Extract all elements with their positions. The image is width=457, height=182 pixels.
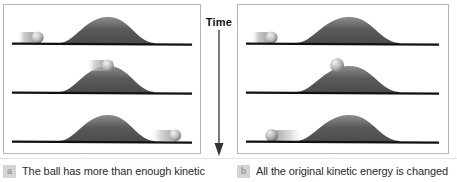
panel-b-frame-3: [238, 103, 448, 153]
hill-shape: [58, 17, 154, 45]
ground-line: [12, 93, 192, 94]
caption-b: b All the original kinetic energy is cha…: [237, 161, 457, 181]
ground-line: [246, 44, 439, 45]
hill-shape: [295, 66, 399, 94]
scene-ball-and-hill: [238, 54, 448, 104]
ball-icon: [102, 60, 114, 72]
panel-a: [3, 4, 201, 154]
hill-shape: [295, 115, 399, 143]
down-arrow-icon: [200, 30, 238, 156]
ground-line: [246, 142, 439, 143]
panel-b-frame-1: [238, 5, 448, 55]
caption-divider: [0, 158, 457, 159]
scene-ball-and-hill: [4, 5, 200, 55]
caption-text-b: All the original kinetic energy is chang…: [256, 165, 448, 177]
ball-icon: [266, 32, 278, 44]
caption-text-a: The ball has more than enough kinetic: [22, 165, 205, 177]
ground-line: [12, 44, 192, 45]
caption-badge-a: a: [3, 165, 16, 178]
panel-a-frame-2: [4, 54, 200, 104]
panel-a-frame-1: [4, 5, 200, 55]
panel-a-frame-3: [4, 103, 200, 153]
hill-shape: [58, 115, 154, 143]
ball-icon: [32, 32, 44, 44]
physics-figure: Time: [0, 0, 457, 182]
ball-icon: [169, 130, 181, 142]
ground-line: [246, 93, 439, 94]
scene-ball-and-hill: [4, 103, 200, 153]
scene-ball-and-hill: [238, 103, 448, 153]
panel-b: [237, 4, 449, 154]
ground-line: [12, 142, 192, 143]
time-axis: Time: [200, 4, 238, 156]
caption-badge-b: b: [237, 165, 250, 178]
ball-icon: [265, 129, 278, 142]
ball-icon: [330, 58, 344, 72]
scene-ball-and-hill: [238, 5, 448, 55]
time-axis-label: Time: [200, 16, 238, 28]
panel-b-frame-2: [238, 54, 448, 104]
hill-shape: [295, 17, 399, 45]
scene-ball-and-hill: [4, 54, 200, 104]
caption-a: a The ball has more than enough kinetic: [3, 161, 229, 181]
